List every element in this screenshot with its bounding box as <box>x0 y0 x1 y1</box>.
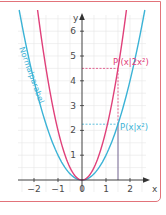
y-tick-label: 6 <box>70 26 76 36</box>
y-tick-label: 4 <box>70 76 76 86</box>
labels: −2−1012123456xyNormalparabelP(x|x²)P'(x|… <box>17 13 158 194</box>
guide-lines <box>82 68 118 180</box>
normal-parabola-label: Normalparabel <box>17 46 46 105</box>
x-axis-arrow-icon <box>143 177 150 183</box>
y-axis-arrow-icon <box>79 13 85 20</box>
y-tick-label: 3 <box>70 101 76 111</box>
point-p-label: P(x|x²) <box>120 122 148 132</box>
x-tick-label: 1 <box>103 184 109 194</box>
x-tick-label: −1 <box>51 184 64 194</box>
y-axis-label: y <box>73 13 79 23</box>
x-tick-label: 0 <box>79 184 85 194</box>
x-tick-label: 2 <box>127 184 133 194</box>
y-tick-label: 1 <box>70 150 76 160</box>
x-tick-label: −2 <box>27 184 40 194</box>
parabola-chart: −2−1012123456xyNormalparabelP(x|x²)P'(x|… <box>0 0 166 215</box>
y-tick-label: 2 <box>70 125 76 135</box>
point-p-prime-label: P'(x|2x²) <box>113 57 149 67</box>
x-axis-label: x <box>152 184 158 194</box>
y-tick-label: 5 <box>70 51 76 61</box>
